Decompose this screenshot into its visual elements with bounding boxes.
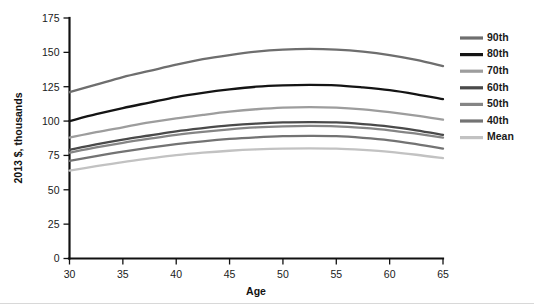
legend-label-70th: 70th xyxy=(487,64,509,76)
x-tick-label: 65 xyxy=(437,268,449,280)
x-tick-label: 60 xyxy=(384,268,396,280)
y-tick-label: 100 xyxy=(42,115,60,127)
y-axis-title: 2013 $, thousands xyxy=(12,92,24,183)
legend-label-60th: 60th xyxy=(487,81,509,93)
x-tick-label: 55 xyxy=(330,268,342,280)
y-tick-label: 50 xyxy=(48,184,60,196)
x-tick-label: 35 xyxy=(117,268,129,280)
y-tick-label: 150 xyxy=(42,46,60,58)
x-tick-label: 50 xyxy=(277,268,289,280)
legend-label-50th: 50th xyxy=(487,97,509,109)
legend-label-80th: 80th xyxy=(487,47,509,59)
y-tick-label: 175 xyxy=(42,12,60,24)
y-tick-label: 25 xyxy=(48,218,60,230)
y-tick-label: 75 xyxy=(48,149,60,161)
chart-background xyxy=(0,0,534,307)
legend-label-90th: 90th xyxy=(487,31,509,43)
chart-figure: 0255075100125150175 3035404550556065 Age… xyxy=(0,0,534,307)
x-tick-label: 30 xyxy=(64,268,76,280)
legend-label-40th: 40th xyxy=(487,114,509,126)
x-tick-label: 40 xyxy=(170,268,182,280)
y-tick-label: 0 xyxy=(54,252,60,264)
x-tick-label: 45 xyxy=(224,268,236,280)
line-chart-svg: 0255075100125150175 3035404550556065 Age… xyxy=(0,0,534,307)
x-axis-title: Age xyxy=(246,285,266,297)
legend-label-mean: Mean xyxy=(487,130,514,142)
y-tick-label: 125 xyxy=(42,81,60,93)
